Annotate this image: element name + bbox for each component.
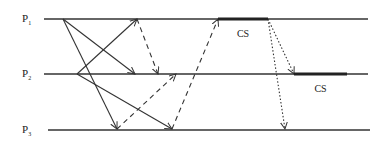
message-arrow-p2-to-p1: [77, 19, 137, 74]
message-arrow-p3-to-p2: [117, 74, 176, 129]
critical-section-label-p2: CS: [314, 83, 326, 94]
critical-section-label-p1: CS: [237, 28, 249, 39]
space-time-diagram: P1P2P3 CSCS: [0, 0, 388, 144]
message-arrow-p2-to-p3: [77, 74, 172, 129]
message-arrow-p1-to-p2: [63, 19, 135, 74]
process-label-p1: P1: [22, 12, 31, 26]
message-arrow-p1-to-p2: [137, 19, 158, 74]
process-label-p3: P3: [22, 123, 31, 137]
message-arrow-p1-to-p2: [268, 19, 294, 74]
process-label-p2: P2: [22, 67, 31, 81]
